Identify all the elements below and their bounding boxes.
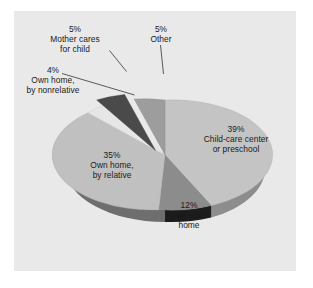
pie-chart-figure: 5% Mother cares for child 5% Other 4% Ow… xyxy=(0,0,313,288)
leader-line-other xyxy=(161,45,164,74)
label-text-line2: for child xyxy=(36,44,114,54)
label-child-care-center-or-preschool: 39% Child-care center or preschool xyxy=(182,124,290,155)
label-text-line1: Mother cares xyxy=(36,34,114,44)
label-text-line1: Child-care xyxy=(155,210,223,220)
label-percent: 5% xyxy=(132,24,190,34)
label-own-home-by-relative: 35% Own home, by relative xyxy=(74,150,150,181)
label-text-line1: Child-care center xyxy=(182,134,290,144)
label-percent: 35% xyxy=(74,150,150,160)
label-text-line2: home xyxy=(155,220,223,230)
label-text-line2: by relative xyxy=(74,170,150,180)
label-percent: 12% xyxy=(155,200,223,210)
label-text-line1: Other xyxy=(132,34,190,44)
label-text-line2: or preschool xyxy=(182,144,290,154)
label-text-line1: Own home, xyxy=(12,75,94,85)
label-own-home-by-nonrelative: 4% Own home, by nonrelative xyxy=(12,65,94,96)
label-percent: 39% xyxy=(182,124,290,134)
label-mother-cares-for-child: 5% Mother cares for child xyxy=(36,24,114,55)
label-other: 5% Other xyxy=(132,24,190,44)
label-percent: 4% xyxy=(12,65,94,75)
label-child-care-home: 12% Child-care home xyxy=(155,200,223,231)
label-text-line1: Own home, xyxy=(74,160,150,170)
label-text-line2: by nonrelative xyxy=(12,85,94,95)
label-percent: 5% xyxy=(36,24,114,34)
